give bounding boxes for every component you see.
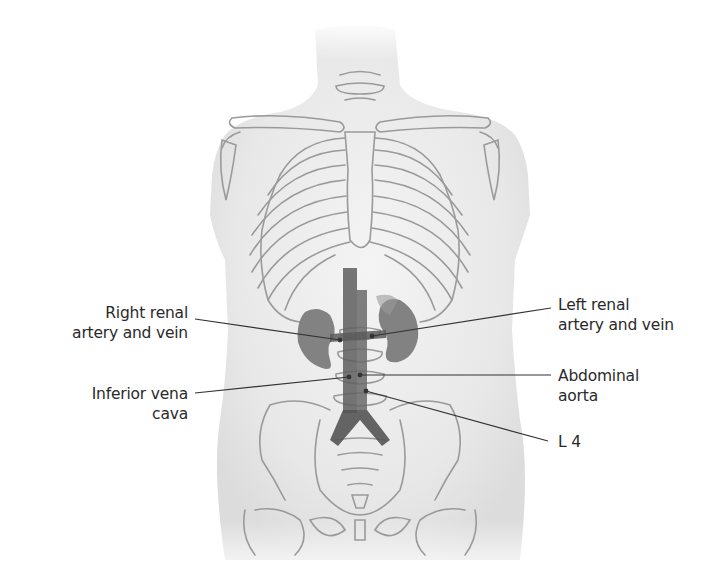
label-l4: L 4 (558, 432, 581, 452)
anatomy-illustration (0, 0, 721, 583)
label-abdominal-aorta: Abdominal aorta (558, 366, 639, 406)
label-left-renal-artery-vein: Left renal artery and vein (558, 295, 674, 335)
label-inferior-vena-cava: Inferior vena cava (62, 384, 188, 424)
label-right-renal-artery-vein: Right renal artery and vein (62, 303, 188, 343)
body-silhouette (210, 20, 540, 583)
